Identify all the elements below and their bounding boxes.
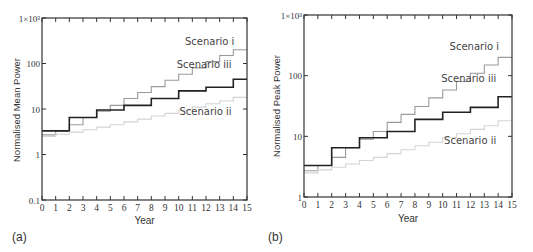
y-tick-label: 1: [36, 150, 41, 160]
x-tick-label: 6: [385, 200, 390, 210]
series-scenario-iii: [304, 97, 512, 166]
x-tick-label: 4: [357, 200, 362, 210]
x-tick-label: 12: [201, 203, 211, 213]
x-tick-label: 8: [413, 200, 418, 210]
x-tick-label: 3: [343, 200, 348, 210]
x-tick-label: 0: [302, 200, 307, 210]
x-tick-label: 15: [242, 203, 252, 213]
x-tick-label: 4: [94, 203, 99, 213]
x-tick-label: 2: [67, 203, 72, 213]
x-tick-label: 5: [108, 203, 113, 213]
x-tick-label: 12: [466, 200, 476, 210]
x-tick-label: 9: [426, 200, 431, 210]
x-tick-label: 7: [399, 200, 404, 210]
x-tick-label: 11: [188, 203, 197, 213]
x-tick-label: 1: [53, 203, 58, 213]
x-tick-label: 10: [438, 200, 448, 210]
x-tick-label: 14: [493, 200, 503, 210]
x-tick-label: 0: [40, 203, 45, 213]
x-axis-label: Year: [134, 215, 155, 226]
y-tick-label: 10: [293, 132, 303, 142]
x-tick-label: 15: [507, 200, 517, 210]
x-tick-label: 13: [480, 200, 490, 210]
x-tick-label: 8: [149, 203, 154, 213]
panel-label-a: (a): [12, 230, 27, 244]
y-tick-label: 1×10³: [19, 14, 41, 24]
figure-canvas: 01234567891011121314150.11101001×10³Year…: [0, 0, 533, 252]
annotation-scenario-i: Scenario i: [450, 41, 499, 52]
x-tick-label: 14: [229, 203, 239, 213]
y-tick-label: 1: [298, 193, 303, 203]
y-tick-label: 100: [289, 71, 303, 81]
x-tick-label: 1: [315, 200, 320, 210]
y-tick-label: 100: [27, 59, 41, 69]
x-tick-label: 2: [329, 200, 334, 210]
x-tick-label: 3: [81, 203, 86, 213]
x-tick-label: 7: [135, 203, 140, 213]
series-scenario-ii: [304, 121, 512, 173]
y-axis-label: Normalised Mean Power: [11, 58, 22, 162]
annotation-scenario-i: Scenario i: [185, 36, 234, 47]
x-tick-label: 13: [215, 203, 225, 213]
x-tick-label: 10: [174, 203, 184, 213]
annotation-scenario-ii: Scenario ii: [444, 135, 496, 146]
y-tick-label: 0.1: [29, 196, 40, 206]
chart-b-peak-power: 01234567891011121314151101001×10³YearNor…: [271, 11, 517, 225]
x-tick-label: 5: [371, 200, 376, 210]
y-axis-label: Normalised Peak Power: [271, 55, 282, 157]
annotation-scenario-iii: Scenario iii: [177, 59, 232, 70]
x-tick-label: 6: [122, 203, 127, 213]
x-tick-label: 11: [452, 200, 461, 210]
annotation-scenario-iii: Scenario iii: [441, 73, 496, 84]
x-axis-label: Year: [398, 213, 419, 224]
chart-a-mean-power: 01234567891011121314150.11101001×10³Year…: [11, 14, 252, 227]
annotation-scenario-ii: Scenario ii: [179, 106, 231, 117]
panel-label-b: (b): [268, 230, 283, 244]
y-tick-label: 1×10³: [281, 11, 303, 21]
x-tick-label: 9: [163, 203, 168, 213]
y-tick-label: 10: [31, 105, 41, 115]
